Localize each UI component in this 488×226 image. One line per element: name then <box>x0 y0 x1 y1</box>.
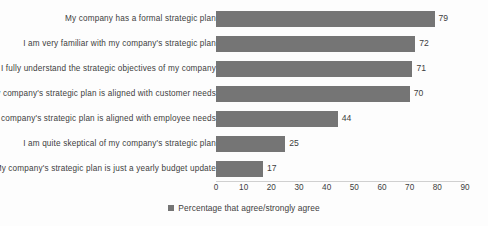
bar[interactable] <box>216 11 435 27</box>
bar-value-label: 44 <box>342 114 352 123</box>
bar-row: I am quite skeptical of my company's str… <box>0 131 488 156</box>
category-label: My company's strategic plan is just a ye… <box>0 156 216 181</box>
category-label: I am quite skeptical of my company's str… <box>23 131 216 156</box>
bar-row: My company's strategic plan is just a ye… <box>0 156 488 181</box>
bar[interactable] <box>216 61 412 77</box>
bar-value-label: 25 <box>289 139 299 148</box>
x-axis-tick: 50 <box>350 183 359 192</box>
bar-row: My company has a formal strategic plan 7… <box>0 6 488 31</box>
category-label: I fully understand the strategic objecti… <box>1 56 216 81</box>
legend-swatch-icon <box>168 205 174 211</box>
bar-group: 71 <box>216 56 426 81</box>
bar-row: My company's strategic plan is aligned w… <box>0 81 488 106</box>
plot-area: My company has a formal strategic plan 7… <box>0 6 488 181</box>
x-axis-tick: 70 <box>405 183 414 192</box>
bar-group: 25 <box>216 131 299 156</box>
x-axis-tick: 30 <box>294 183 303 192</box>
x-axis-tick: 10 <box>239 183 248 192</box>
x-axis-tick: 40 <box>322 183 331 192</box>
bar-group: 79 <box>216 6 448 31</box>
x-axis-tick: 20 <box>267 183 276 192</box>
bar[interactable] <box>216 136 285 152</box>
legend-label: Percentage that agree/strongly agree <box>178 203 319 213</box>
category-label: My company's strategic plan is aligned w… <box>0 81 216 106</box>
x-axis-tick: 90 <box>460 183 469 192</box>
bar-value-label: 70 <box>414 89 424 98</box>
x-axis-tick: 60 <box>377 183 386 192</box>
x-axis-line <box>216 181 465 182</box>
bar-group: 44 <box>216 106 351 131</box>
x-axis-tick: 0 <box>214 183 219 192</box>
category-label: I am very familiar with my company's str… <box>23 31 216 56</box>
bar-value-label: 17 <box>267 164 277 173</box>
bar-group: 17 <box>216 156 277 181</box>
bar[interactable] <box>216 86 410 102</box>
x-axis-tick: 80 <box>433 183 442 192</box>
bar-row: I fully understand the strategic objecti… <box>0 56 488 81</box>
category-label: My company has a formal strategic plan <box>65 6 216 31</box>
bar[interactable] <box>216 111 338 127</box>
bar-row: I am very familiar with my company's str… <box>0 31 488 56</box>
bar-row: My company's strategic plan is aligned w… <box>0 106 488 131</box>
bar[interactable] <box>216 161 263 177</box>
bar-value-label: 71 <box>416 64 426 73</box>
bar-group: 72 <box>216 31 429 56</box>
bar-group: 70 <box>216 81 423 106</box>
x-axis-tick-labels: 0102030405060708090 <box>0 183 488 197</box>
chart-legend: Percentage that agree/strongly agree <box>0 203 488 213</box>
category-label: My company's strategic plan is aligned w… <box>0 106 216 131</box>
bar-value-label: 79 <box>439 14 449 23</box>
bar-value-label: 72 <box>419 39 429 48</box>
bar-chart: My company has a formal strategic plan 7… <box>0 0 488 226</box>
bar[interactable] <box>216 36 415 52</box>
